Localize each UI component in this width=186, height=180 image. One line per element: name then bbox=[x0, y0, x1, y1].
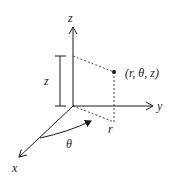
cylindrical-coordinates-diagram: z y x z (r, θ, z) r θ bbox=[0, 0, 186, 180]
radius-line bbox=[73, 106, 114, 122]
point-label: (r, θ, z) bbox=[125, 66, 159, 80]
height-label: z bbox=[43, 74, 49, 88]
point-marker bbox=[112, 70, 116, 74]
x-axis-label: x bbox=[11, 161, 18, 175]
radius-label: r bbox=[108, 122, 113, 136]
y-axis-label: y bbox=[156, 99, 163, 113]
angle-label: θ bbox=[66, 137, 72, 151]
projection-line-top bbox=[73, 56, 114, 72]
height-dimension bbox=[55, 56, 66, 106]
z-axis-label: z bbox=[67, 11, 73, 25]
